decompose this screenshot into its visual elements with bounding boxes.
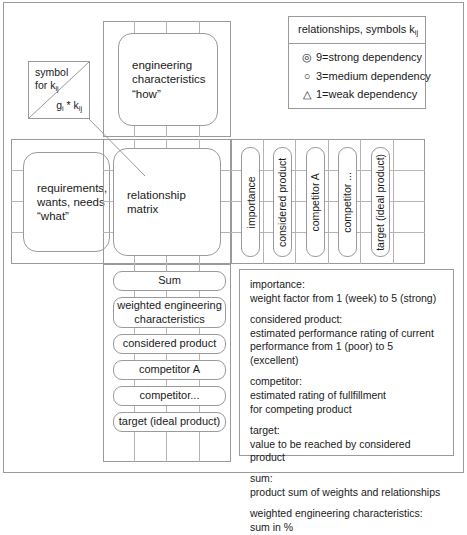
legend-item-medium-label: 3=medium dependency — [316, 70, 431, 82]
description-considered-product: considered product: estimated performanc… — [250, 313, 444, 368]
column-importance-label: importance — [244, 176, 257, 228]
legend-body: ◎ 9=strong dependency ○ 3=medium depende… — [289, 44, 425, 109]
legend-title: relationships, symbols kij — [289, 17, 425, 44]
double-circle-icon: ◎ — [298, 51, 316, 64]
engineering-characteristics-box[interactable]: engineering characteristics “how” — [118, 33, 218, 126]
right-gridline-h1 — [231, 170, 425, 171]
column-competitor-more-label: competitor ... — [341, 172, 354, 233]
symbol-key-box: symbol for kij gi * kij — [28, 61, 90, 119]
column-competitor-more[interactable]: competitor ... — [338, 147, 357, 257]
triangle-icon: △ — [298, 88, 316, 101]
bottom-row-considered-product[interactable]: considered product — [113, 334, 226, 354]
bottom-row-weighted-engineering-characteristics[interactable]: weighted engineering characteristics — [113, 297, 226, 328]
column-target-label: target (ideal product) — [374, 154, 387, 251]
description-panel: importance: weight factor from 1 (week) … — [239, 269, 454, 456]
column-competitor-a-label: competitor A — [309, 173, 322, 231]
bottom-row-sum[interactable]: Sum — [113, 271, 226, 291]
bottom-row-competitor-more[interactable]: competitor... — [113, 386, 226, 406]
relationship-matrix-box[interactable]: relationship matrix — [113, 148, 221, 256]
bottom-row-target-ideal-product[interactable]: target (ideal product) — [113, 412, 226, 432]
legend-item-weak-label: 1=weak dependency — [316, 88, 417, 100]
right-gridline-h2 — [231, 201, 425, 202]
legend-title-subscript: ij — [415, 28, 418, 37]
requirements-box[interactable]: requirements, wants, needs “what” — [23, 152, 110, 252]
legend-item-strong: ◎ 9=strong dependency — [298, 51, 416, 64]
description-importance: importance: weight factor from 1 (week) … — [250, 278, 444, 306]
legend-item-medium: ○ 3=medium dependency — [298, 70, 416, 82]
legend-item-weak: △ 1=weak dependency — [298, 88, 416, 101]
description-weighted-engineering-characteristics: weighted engineering characteristics: su… — [250, 507, 444, 535]
symbol-key-product: gi * kij — [56, 99, 82, 113]
relationship-legend: relationships, symbols kij ◎ 9=strong de… — [288, 16, 426, 109]
symbol-key-label-subscript: ij — [55, 85, 58, 93]
right-gridline-h3 — [231, 232, 425, 233]
column-target-ideal-product[interactable]: target (ideal product) — [371, 147, 390, 257]
circle-icon: ○ — [298, 70, 316, 82]
bottom-row-competitor-a[interactable]: competitor A — [113, 360, 226, 380]
column-considered-product[interactable]: considered product — [273, 147, 292, 257]
description-sum: sum: product sum of weights and relation… — [250, 472, 444, 500]
description-competitor: competitor: estimated rating of fullfill… — [250, 375, 444, 417]
symbol-key-label: symbol for kij — [35, 66, 68, 93]
description-target: target: value to be reached by considere… — [250, 424, 444, 466]
column-competitor-a[interactable]: competitor A — [306, 147, 325, 257]
column-considered-product-label: considered product — [276, 157, 289, 246]
legend-item-strong-label: 9=strong dependency — [316, 51, 422, 63]
column-importance[interactable]: importance — [241, 147, 260, 257]
